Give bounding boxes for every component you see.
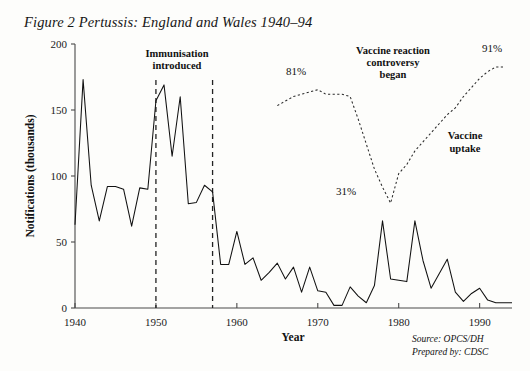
x-tick-label: 1980 [388,316,411,328]
immunisation-label-line2: introduced [153,60,202,71]
source-line-2: Prepared by: CDSC [411,347,489,357]
x-axis-title: Year [282,331,305,343]
annotation-immunisation: Immunisation introduced [145,48,208,71]
y-tick-label: 0 [62,302,68,314]
y-tick-label: 150 [51,104,68,116]
y-tick-label: 200 [51,38,68,50]
source-line-1: Source: OPCS/DH [412,334,485,344]
y-axis-title: Notifications (thousands) [24,114,37,237]
x-tick-label: 1990 [469,316,492,328]
x-tick-label: 1940 [64,316,87,328]
y-tick-label: 50 [56,236,68,248]
x-tick-group: 194019501960197019801990 [64,303,491,328]
figure-container: Figure 2 Pertussis: England and Wales 19… [0,0,530,371]
controversy-label-line1: Vaccine reaction [356,45,430,56]
annotation-uptake: Vaccine uptake [448,130,483,154]
pct-trough-label: 31% [336,185,356,197]
annotation-controversy: Vaccine reaction controversy began [356,45,430,80]
notifications-line [75,80,512,306]
immunisation-label-line1: Immunisation [145,48,208,59]
controversy-label-line2: controversy [367,57,421,68]
x-tick-label: 1960 [226,316,249,328]
uptake-label-line2: uptake [450,143,481,154]
x-tick-label: 1950 [145,316,168,328]
pct-peak-label: 81% [286,65,306,77]
y-tick-label: 100 [51,170,68,182]
chart-canvas: 050100150200 Notifications (thousands) 1… [0,0,530,371]
uptake-label-line1: Vaccine [448,130,483,141]
y-axis: 050100150200 Notifications (thousands) [24,38,75,314]
pct-final-label: 91% [482,42,502,54]
x-tick-label: 1970 [307,316,330,328]
controversy-label-line3: began [380,69,407,80]
y-tick-group: 050100150200 [51,38,76,314]
vertical-marker-group [156,80,213,308]
